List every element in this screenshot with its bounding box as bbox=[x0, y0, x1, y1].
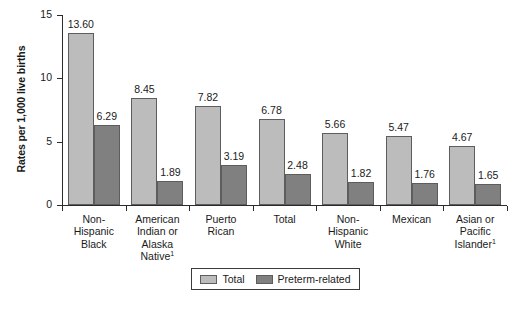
x-axis-line bbox=[62, 205, 507, 206]
legend-item-total: Total bbox=[200, 273, 244, 285]
x-category-label-line: Hispanic bbox=[308, 225, 388, 237]
legend-label-total: Total bbox=[222, 273, 244, 285]
bar-value-label: 2.48 bbox=[278, 159, 318, 171]
legend-label-preterm-related: Preterm-related bbox=[278, 273, 351, 285]
x-category-label-line: Native1 bbox=[118, 250, 198, 262]
legend-item-preterm-related: Preterm-related bbox=[256, 273, 351, 285]
bar-value-label: 6.78 bbox=[252, 104, 292, 116]
x-category-label-line: Asian or bbox=[435, 213, 515, 225]
x-category-label: Asian orPacificIslander1 bbox=[435, 213, 515, 250]
bar-value-label: 1.65 bbox=[468, 169, 508, 181]
legend-swatch-preterm-related bbox=[256, 275, 273, 284]
bar-value-label: 6.29 bbox=[87, 110, 127, 122]
x-tick-mark bbox=[443, 206, 444, 211]
bar-value-label: 1.82 bbox=[341, 167, 381, 179]
bar-value-label: 3.19 bbox=[214, 150, 254, 162]
bar-preterm-related bbox=[221, 165, 247, 205]
x-tick-mark bbox=[316, 206, 317, 211]
bar-preterm-related bbox=[475, 184, 501, 205]
legend-swatch-total bbox=[200, 275, 217, 284]
footnote-marker: 1 bbox=[492, 237, 496, 244]
bar-value-label: 8.45 bbox=[124, 83, 164, 95]
bar-value-label: 13.60 bbox=[61, 18, 101, 30]
x-tick-mark bbox=[507, 206, 508, 211]
chart-legend: Total Preterm-related bbox=[191, 268, 360, 290]
x-category-label-line: White bbox=[308, 238, 388, 250]
x-tick-mark bbox=[189, 206, 190, 211]
y-axis-title: Rates per 1,000 live births bbox=[15, 19, 27, 199]
x-tick-mark bbox=[253, 206, 254, 211]
footnote-marker: 1 bbox=[170, 250, 174, 257]
bar-value-label: 7.82 bbox=[188, 91, 228, 103]
y-tick-label: 10 bbox=[0, 71, 52, 83]
x-tick-mark bbox=[126, 206, 127, 211]
plot-area: 13.606.298.451.897.823.196.782.485.661.8… bbox=[62, 15, 507, 205]
bar-preterm-related bbox=[285, 174, 311, 205]
bar-value-label: 5.66 bbox=[315, 118, 355, 130]
x-category-label-line: Alaska bbox=[118, 238, 198, 250]
x-tick-mark bbox=[380, 206, 381, 211]
bar-chart: Rates per 1,000 live births 051015 13.60… bbox=[0, 0, 517, 309]
y-tick-label: 15 bbox=[0, 8, 52, 20]
x-category-label-line: Rican bbox=[181, 225, 261, 237]
bar-preterm-related bbox=[157, 181, 183, 205]
y-tick-label: 0 bbox=[0, 198, 52, 210]
bar-preterm-related bbox=[412, 183, 438, 205]
x-tick-mark bbox=[62, 206, 63, 211]
x-category-label-line: Pacific bbox=[435, 225, 515, 237]
bar-value-label: 1.76 bbox=[405, 168, 445, 180]
bar-value-label: 5.47 bbox=[379, 121, 419, 133]
bar-value-label: 1.89 bbox=[150, 166, 190, 178]
bar-total bbox=[131, 98, 157, 205]
bar-preterm-related bbox=[94, 125, 120, 205]
y-tick-label: 5 bbox=[0, 135, 52, 147]
bar-value-label: 4.67 bbox=[442, 131, 482, 143]
bar-preterm-related bbox=[348, 182, 374, 205]
x-category-label-line: Islander1 bbox=[435, 238, 515, 250]
